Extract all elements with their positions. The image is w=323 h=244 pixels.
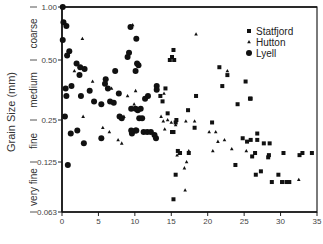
- point-square-marker: [171, 48, 175, 52]
- point-triangle-marker: [101, 126, 105, 129]
- point-circle-marker: [78, 93, 84, 99]
- point-square-marker: [298, 153, 302, 157]
- point-circle-marker: [98, 135, 104, 141]
- legend-item-hutton: Hutton: [247, 37, 285, 48]
- point-circle-marker: [153, 135, 159, 141]
- point-square-marker: [253, 151, 257, 155]
- legend: StatfjordHuttonLyell: [246, 26, 293, 59]
- point-circle-marker: [68, 131, 74, 137]
- point-circle-marker: [116, 90, 122, 96]
- point-square-marker: [249, 97, 253, 101]
- point-triangle-marker: [166, 118, 170, 121]
- point-circle-marker: [63, 85, 69, 91]
- y-tick-label: 1.00: [41, 3, 57, 12]
- point-circle-marker: [68, 83, 74, 89]
- point-circle-marker: [154, 87, 160, 93]
- size-class-label: very fine: [28, 168, 39, 206]
- point-triangle-marker: [194, 32, 198, 35]
- x-tick-label: 25: [240, 217, 249, 226]
- point-triangle-marker: [185, 160, 189, 163]
- point-triangle-marker: [126, 94, 130, 97]
- size-class-label: coarse: [28, 18, 39, 48]
- point-triangle-marker: [169, 120, 173, 123]
- point-square-marker: [250, 154, 254, 158]
- size-class-labels: coarsemediumfinevery fine: [28, 18, 39, 206]
- point-triangle-marker: [245, 149, 249, 152]
- point-circle-marker: [76, 72, 82, 78]
- size-class-label: fine: [28, 133, 39, 150]
- legend-label: Lyell: [256, 48, 276, 59]
- point-triangle-marker: [214, 130, 218, 133]
- legend-label: Hutton: [256, 37, 285, 48]
- y-axis-title: Grain Size (mm): [5, 72, 17, 152]
- point-circle-marker: [74, 128, 80, 134]
- scatter-chart: Grain Size (mm) coarsemediumfinevery fin…: [0, 0, 323, 244]
- x-tick-label: 5: [96, 217, 101, 226]
- point-triangle-marker: [159, 115, 163, 118]
- legend-item-lyell: Lyell: [246, 48, 276, 59]
- series-lyell: [60, 4, 160, 168]
- point-square-marker: [259, 169, 263, 173]
- legend-triangle-marker: [247, 40, 251, 43]
- point-square-marker: [241, 136, 245, 140]
- point-square-marker: [225, 73, 229, 77]
- point-circle-marker: [111, 100, 117, 106]
- x-tick-label: 20: [203, 217, 212, 226]
- point-circle-marker: [136, 62, 142, 68]
- point-triangle-marker: [161, 119, 165, 122]
- point-triangle-marker: [120, 141, 124, 144]
- point-circle-marker: [139, 115, 145, 121]
- point-square-marker: [194, 94, 198, 98]
- point-triangle-marker: [81, 115, 85, 118]
- y-tick-label: 0.125: [37, 158, 58, 167]
- point-circle-marker: [138, 106, 144, 112]
- point-square-marker: [220, 84, 224, 88]
- series-statfjord: [158, 48, 314, 201]
- x-tick-label: 10: [130, 217, 139, 226]
- point-square-marker: [171, 197, 175, 201]
- legend-label: Statfjord: [256, 26, 293, 37]
- y-tick-label: 0.063: [37, 208, 58, 217]
- point-triangle-marker: [211, 149, 215, 152]
- point-square-marker: [161, 99, 165, 103]
- point-square-marker: [262, 141, 266, 145]
- point-triangle-marker: [108, 130, 112, 133]
- point-square-marker: [174, 173, 178, 177]
- point-triangle-marker: [226, 69, 230, 72]
- point-triangle-marker: [183, 166, 187, 169]
- point-circle-marker: [62, 114, 68, 120]
- y-tick-label: 0.50: [41, 56, 57, 65]
- point-circle-marker: [102, 81, 108, 87]
- point-circle-marker: [125, 54, 131, 60]
- point-circle-marker: [63, 93, 69, 99]
- point-square-marker: [266, 155, 270, 159]
- point-triangle-marker: [134, 89, 138, 92]
- size-class-label: medium: [28, 72, 39, 108]
- point-square-marker: [249, 138, 253, 142]
- point-circle-marker: [98, 101, 104, 107]
- point-triangle-marker: [230, 147, 234, 150]
- point-square-marker: [171, 130, 175, 134]
- point-square-marker: [186, 108, 190, 112]
- point-square-marker: [255, 138, 259, 142]
- point-triangle-marker: [162, 91, 166, 94]
- point-square-marker: [233, 163, 237, 167]
- y-axis-title-group: Grain Size (mm): [5, 72, 17, 152]
- point-square-marker: [172, 58, 176, 62]
- point-circle-marker: [128, 106, 134, 112]
- legend-circle-marker: [246, 50, 252, 56]
- point-square-marker: [254, 173, 258, 177]
- point-square-marker: [168, 58, 172, 62]
- point-square-marker: [280, 180, 284, 184]
- point-circle-marker: [117, 114, 123, 120]
- x-tick-label: 0: [60, 217, 65, 226]
- legend-square-marker: [247, 29, 251, 33]
- legend-item-statfjord: Statfjord: [247, 26, 293, 37]
- point-square-marker: [281, 151, 285, 155]
- point-square-marker: [166, 111, 170, 115]
- x-tick-label: 15: [167, 217, 176, 226]
- point-square-marker: [276, 173, 280, 177]
- point-circle-marker: [60, 4, 66, 10]
- point-square-marker: [193, 126, 197, 130]
- point-square-marker: [245, 140, 249, 144]
